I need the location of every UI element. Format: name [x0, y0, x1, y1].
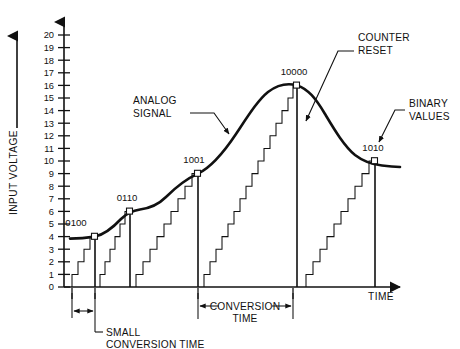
staircase-ramp-0100: [72, 237, 95, 287]
y-ticklabel-5: 5: [49, 219, 54, 229]
annotation-analog-signal: ANALOG SIGNAL: [133, 95, 229, 134]
y-ticklabel-11: 11: [44, 144, 54, 154]
binary-label-0110: 0110: [117, 192, 138, 203]
binary-value-labels: 0100 0110 1001 10000 1010: [65, 66, 383, 228]
binary-label-0100: 0100: [65, 217, 86, 228]
annotation-analog-signal-line1: ANALOG: [133, 95, 177, 106]
y-ticklabel-4: 4: [49, 232, 54, 242]
y-ticklabel-13: 13: [44, 119, 54, 129]
staircase-ramp-10000: [204, 85, 297, 287]
y-ticklabel-19: 19: [44, 43, 54, 53]
y-ticklabel-17: 17: [44, 68, 54, 78]
annotation-small-conversion-line2: CONVERSION TIME: [106, 339, 204, 349]
annotation-binary-values-line1: BINARY: [409, 98, 448, 109]
staircase-ramp-0110: [100, 211, 130, 287]
y-ticklabel-3: 3: [49, 245, 54, 255]
dimension-conversion-time: CONVERSION TIME: [198, 293, 293, 324]
marker-0110: [127, 208, 133, 214]
y-ticklabel-12: 12: [44, 131, 54, 141]
counter-staircases: [72, 85, 375, 287]
annotation-binary-values-line2: VALUES: [409, 111, 450, 122]
staircase-ramp-1010: [306, 161, 375, 287]
figure-svg: INPUT VOLTAGE: [0, 0, 460, 349]
marker-1001: [195, 170, 201, 176]
y-axis-ticks: [58, 35, 70, 287]
y-ticklabel-1: 1: [49, 270, 54, 280]
x-axis: TIME: [64, 287, 400, 302]
marker-0100: [92, 233, 98, 239]
marker-1010: [372, 158, 378, 164]
y-ticklabel-10: 10: [44, 156, 54, 166]
dimension-small-conversion-time: SMALL CONVERSION TIME: [72, 293, 204, 349]
y-ticklabel-18: 18: [44, 56, 54, 66]
annotation-binary-values: BINARY VALUES: [379, 98, 450, 142]
y-ticklabel-8: 8: [49, 182, 54, 192]
staircase-ramp-1001: [136, 174, 198, 287]
x-axis-ticks: [72, 288, 293, 299]
y-ticklabel-15: 15: [44, 93, 54, 103]
y-ticklabel-20: 20: [44, 30, 54, 40]
annotation-binary-values-leader: [379, 110, 405, 142]
y-axis-title-group: INPUT VOLTAGE: [8, 36, 19, 215]
y-axis-title: INPUT VOLTAGE: [8, 130, 19, 215]
binary-label-10000: 10000: [281, 66, 308, 77]
annotation-counter-reset-leader: [306, 51, 354, 121]
marker-10000: [294, 82, 300, 88]
y-ticklabel-16: 16: [44, 81, 54, 91]
adc-timing-figure: INPUT VOLTAGE: [0, 0, 460, 349]
analog-signal-curve: [70, 84, 400, 238]
y-ticklabel-14: 14: [44, 106, 54, 116]
annotation-small-conversion-line1: SMALL: [106, 327, 141, 338]
annotation-conversion-line1: CONVERSION: [210, 301, 281, 312]
binary-label-1010: 1010: [362, 142, 383, 153]
annotation-conversion-line2: TIME: [232, 313, 257, 324]
y-ticklabel-6: 6: [49, 207, 54, 217]
y-axis-tick-labels: 0 1 2 3 4 5 6 7 8 9 10 11 12 13 14 15 16…: [44, 30, 54, 292]
y-axis: 0 1 2 3 4 5 6 7 8 9 10 11 12 13 14 15 16…: [44, 22, 70, 292]
annotation-counter-reset-line1: COUNTER: [358, 32, 410, 43]
x-axis-title: TIME: [368, 291, 394, 302]
y-ticklabel-2: 2: [49, 257, 54, 267]
binary-label-1001: 1001: [183, 154, 204, 165]
annotation-counter-reset-line2: RESET: [358, 45, 393, 56]
y-ticklabel-0: 0: [49, 282, 54, 292]
y-ticklabel-7: 7: [49, 194, 54, 204]
analog-signal-curve-group: [70, 84, 400, 238]
annotation-analog-signal-line2: SIGNAL: [133, 108, 172, 119]
annotation-analog-signal-leader: [190, 113, 229, 134]
y-ticklabel-9: 9: [49, 169, 54, 179]
